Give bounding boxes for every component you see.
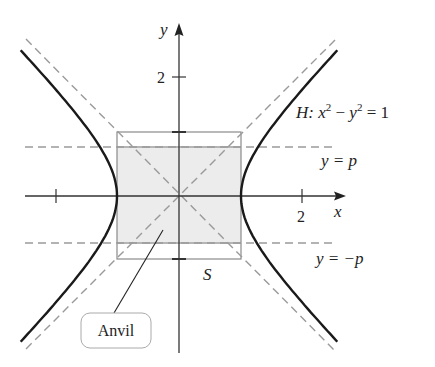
eq-minus: − — [331, 103, 349, 122]
square-label: S — [203, 265, 212, 284]
x-axis-label: x — [333, 202, 342, 221]
y-axis-label: y — [158, 20, 168, 39]
eq-rhs: = 1 — [362, 103, 389, 122]
x-tick-label-2: 2 — [297, 208, 305, 225]
eq-y: y — [347, 103, 357, 122]
anvil-label: Anvil — [98, 322, 135, 339]
line-label-y-p: y = p — [319, 151, 357, 170]
hyperbola-equation-label: H: x2 − y2 = 1 — [295, 101, 389, 122]
hyperbola-diagram: Anvil y x 2 2 S H: x2 − y2 = 1 y = p y =… — [0, 0, 435, 367]
y-tick-label-2: 2 — [157, 69, 165, 86]
diagram-canvas: Anvil y x 2 2 S H: x2 − y2 = 1 y = p y =… — [0, 0, 435, 367]
line-label-y-neg-p: y = −p — [314, 249, 364, 268]
eq-prefix: H: — [295, 103, 318, 122]
